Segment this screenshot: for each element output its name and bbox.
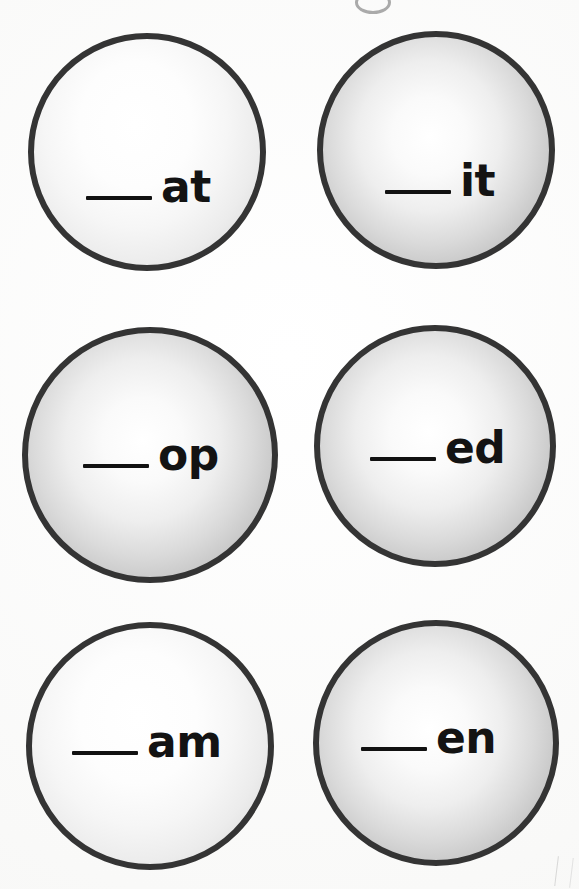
- word-ending-text: en: [436, 716, 496, 760]
- word-prompt: en: [361, 716, 496, 760]
- word-ending-text: ed: [445, 426, 505, 470]
- word-ending-text: at: [161, 165, 211, 209]
- word-prompt: ed: [370, 426, 505, 470]
- word-ending-text: it: [460, 159, 495, 203]
- worksheet-page: atitopedamen: [0, 0, 579, 889]
- bubble-at[interactable]: at: [28, 33, 266, 271]
- blank-line[interactable]: [385, 190, 451, 194]
- blank-line[interactable]: [370, 457, 436, 461]
- partial-circle-artifact-icon: [355, 0, 391, 14]
- word-prompt: am: [72, 720, 222, 764]
- word-prompt: op: [83, 433, 219, 477]
- blank-line[interactable]: [83, 464, 149, 468]
- blank-line[interactable]: [361, 747, 427, 751]
- blank-line[interactable]: [72, 751, 138, 755]
- word-prompt: at: [86, 165, 211, 209]
- word-ending-text: am: [147, 720, 222, 764]
- bubble-op[interactable]: op: [22, 327, 278, 583]
- page-edge-mark-icon: [554, 856, 574, 888]
- blank-line[interactable]: [86, 196, 152, 200]
- word-prompt: it: [385, 159, 495, 203]
- bubble-en[interactable]: en: [313, 620, 559, 866]
- bubble-am[interactable]: am: [26, 622, 274, 870]
- bubble-it[interactable]: it: [317, 31, 555, 269]
- word-ending-text: op: [158, 433, 219, 477]
- bubble-ed[interactable]: ed: [314, 325, 556, 567]
